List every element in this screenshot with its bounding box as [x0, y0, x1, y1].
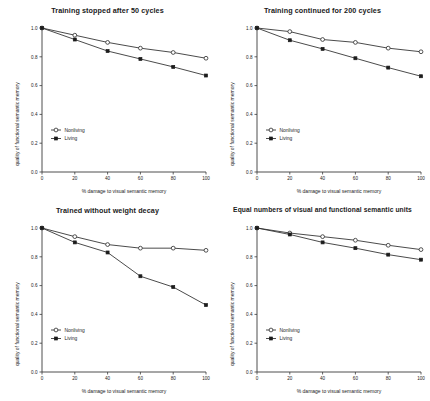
x-ticklabel-3-4: 80 — [386, 376, 392, 381]
marker-3-0-5 — [419, 248, 423, 252]
chart-panel-2: Trained without weight decay 0.00.20.40.… — [0, 200, 215, 401]
marker-1-0-5 — [419, 50, 423, 54]
y-ticklabel-1-0: 0.0 — [246, 170, 253, 175]
marker-3-0-3 — [354, 238, 358, 242]
marker-0-1-5 — [205, 74, 208, 77]
x-ticklabel-1-2: 40 — [320, 176, 326, 181]
legend-label-0-0: Nonliving — [65, 128, 85, 133]
x-ticklabel-2-0: 0 — [41, 376, 44, 381]
marker-1-1-0 — [256, 27, 259, 30]
series-line-2-1 — [42, 228, 206, 305]
legend-label-1-0: Nonliving — [280, 128, 300, 133]
x-axis-label-3: % damage to visual semantic memory — [257, 388, 421, 394]
y-ticklabel-3-3: 0.6 — [246, 283, 253, 288]
marker-2-1-4 — [172, 286, 175, 289]
marker-2-0-3 — [139, 246, 143, 250]
x-ticklabel-3-0: 0 — [256, 376, 259, 381]
chart-svg-3: 0.00.20.40.60.81.0020406080100NonlivingL… — [215, 200, 430, 400]
series-line-0-0 — [42, 28, 206, 58]
y-ticklabel-2-4: 0.8 — [31, 255, 38, 260]
legend-label-2-1: Living — [65, 336, 78, 341]
marker-2-1-3 — [139, 275, 142, 278]
legend-label-0-1: Living — [65, 136, 78, 141]
marker-0-0-1 — [73, 33, 77, 37]
chart-axes-3 — [257, 228, 421, 372]
legend-marker-2-1 — [55, 337, 58, 340]
marker-1-0-4 — [386, 46, 390, 50]
y-ticklabel-1-2: 0.4 — [246, 112, 253, 117]
y-ticklabel-0-2: 0.4 — [31, 112, 38, 117]
x-axis-label-2: % damage to visual semantic memory — [42, 388, 206, 394]
marker-1-1-3 — [354, 57, 357, 60]
x-ticklabel-0-2: 40 — [105, 176, 111, 181]
marker-3-1-0 — [256, 227, 259, 230]
x-ticklabel-2-3: 60 — [138, 376, 144, 381]
x-ticklabel-3-5: 100 — [417, 376, 425, 381]
marker-0-1-2 — [106, 50, 109, 53]
plot-area-1: 0.00.20.40.60.81.0020406080100NonlivingL… — [215, 0, 430, 200]
legend-marker-2-0 — [54, 328, 58, 332]
x-ticklabel-0-1: 20 — [72, 176, 78, 181]
marker-1-1-2 — [321, 47, 324, 50]
legend-label-3-1: Living — [280, 336, 293, 341]
x-ticklabel-2-4: 80 — [171, 376, 177, 381]
marker-1-1-4 — [387, 66, 390, 69]
marker-3-0-2 — [321, 235, 325, 239]
marker-3-1-5 — [420, 258, 423, 261]
legend-label-1-1: Living — [280, 136, 293, 141]
chart-axes-2 — [42, 228, 206, 372]
series-line-1-0 — [257, 28, 421, 52]
y-ticklabel-2-0: 0.0 — [31, 370, 38, 375]
chart-panel-0: Training stopped after 50 cycles 0.00.20… — [0, 0, 215, 200]
y-ticklabel-0-5: 1.0 — [31, 26, 38, 31]
series-line-3-1 — [257, 228, 421, 260]
marker-1-1-5 — [420, 75, 423, 78]
x-ticklabel-1-0: 0 — [256, 176, 259, 181]
y-ticklabel-1-4: 0.8 — [246, 55, 253, 60]
marker-2-0-4 — [171, 246, 175, 250]
marker-3-1-1 — [288, 233, 291, 236]
x-ticklabel-2-2: 40 — [105, 376, 111, 381]
chart-axes-0 — [42, 28, 206, 172]
y-ticklabel-0-0: 0.0 — [31, 170, 38, 175]
marker-1-0-1 — [288, 30, 292, 34]
x-ticklabel-2-1: 20 — [72, 376, 78, 381]
x-ticklabel-1-1: 20 — [287, 176, 293, 181]
series-line-0-1 — [42, 28, 206, 76]
y-axis-label-1: quality of functional semantic memory — [229, 82, 235, 166]
legend-marker-0-0 — [54, 128, 58, 132]
x-ticklabel-0-3: 60 — [138, 176, 144, 181]
marker-3-1-3 — [354, 247, 357, 250]
marker-2-0-2 — [106, 243, 110, 247]
x-ticklabel-3-2: 40 — [320, 376, 326, 381]
chart-axes-1 — [257, 28, 421, 172]
legend-marker-3-1 — [270, 337, 273, 340]
chart-panel-3: Equal numbers of visual and functional s… — [215, 200, 430, 401]
plot-area-2: 0.00.20.40.60.81.0020406080100NonlivingL… — [0, 200, 215, 400]
x-ticklabel-3-1: 20 — [287, 376, 293, 381]
chart-svg-0: 0.00.20.40.60.81.0020406080100NonlivingL… — [0, 0, 215, 200]
marker-2-0-1 — [73, 235, 77, 239]
marker-0-1-3 — [139, 57, 142, 60]
marker-2-0-5 — [204, 248, 208, 252]
legend-marker-1-1 — [270, 137, 273, 140]
x-ticklabel-1-4: 80 — [386, 176, 392, 181]
marker-2-1-1 — [73, 241, 76, 244]
series-line-1-1 — [257, 28, 421, 76]
legend-marker-3-0 — [269, 328, 273, 332]
figure-panel-grid: Training stopped after 50 cycles 0.00.20… — [0, 0, 430, 401]
chart-panel-1: Training continued for 200 cycles 0.00.2… — [215, 0, 430, 200]
y-ticklabel-3-4: 0.8 — [246, 255, 253, 260]
marker-2-1-5 — [205, 304, 208, 307]
y-ticklabel-3-0: 0.0 — [246, 370, 253, 375]
x-ticklabel-2-5: 100 — [202, 376, 210, 381]
marker-1-0-3 — [354, 41, 358, 45]
y-axis-label-0: quality of functional semantic memory — [14, 82, 20, 166]
x-ticklabel-0-4: 80 — [171, 176, 177, 181]
y-ticklabel-2-2: 0.4 — [31, 312, 38, 317]
x-ticklabel-1-5: 100 — [417, 176, 425, 181]
series-line-3-0 — [257, 228, 421, 250]
marker-1-1-1 — [288, 39, 291, 42]
legend-label-3-0: Nonliving — [280, 328, 300, 333]
y-ticklabel-0-1: 0.2 — [31, 141, 38, 146]
